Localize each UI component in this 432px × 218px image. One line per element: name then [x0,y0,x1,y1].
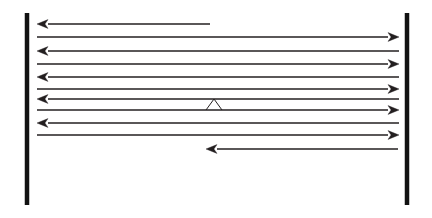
arrow-diagram [0,0,432,218]
arrow-1-head [37,20,48,29]
arrow-8-head [388,106,399,115]
arrow-11-head [206,145,217,154]
diagram-canvas [0,0,432,218]
arrow-5-head [37,73,48,82]
arrow-10-head [388,131,399,140]
caret-marker [206,99,222,110]
arrow-7-head [37,95,48,104]
arrow-8 [37,106,399,115]
caret-marker-outline [206,99,222,110]
arrow-10 [37,131,399,140]
arrow-1 [37,20,210,29]
arrow-9 [37,119,399,128]
arrow-3-head [37,47,48,56]
arrow-4 [37,60,399,69]
arrow-6-head [388,85,399,94]
arrow-11 [206,145,398,154]
arrow-2 [37,33,399,42]
arrow-9-head [37,119,48,128]
arrow-5 [37,73,399,82]
arrow-7 [37,95,399,104]
arrow-6 [37,85,399,94]
arrow-3 [37,47,399,56]
arrow-2-head [388,33,399,42]
arrow-4-head [388,60,399,69]
